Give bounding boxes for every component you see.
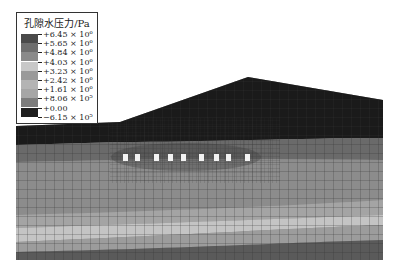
legend-label: −6.15 × 10⁵	[43, 113, 93, 122]
legend-tick	[38, 80, 42, 81]
legend-swatch	[21, 34, 38, 43]
legend-swatch	[21, 62, 38, 71]
legend-swatch	[21, 52, 38, 61]
legend-tick	[38, 117, 42, 118]
legend-label: +3.23 × 10⁶	[43, 67, 93, 76]
legend-label: +6.45 × 10⁶	[43, 30, 93, 39]
legend-title: 孔隙水压力/Pa	[17, 15, 97, 30]
legend-label: +8.06 × 10⁵	[43, 94, 93, 103]
legend-swatch	[21, 98, 38, 107]
legend-tick	[38, 89, 42, 90]
color-legend: 孔隙水压力/Pa +6.45 × 10⁶+5.65 × 10⁶+4.84 × 1…	[16, 12, 98, 124]
legend-swatch	[21, 108, 38, 117]
legend-tick	[38, 98, 42, 99]
legend-tick	[38, 34, 42, 35]
legend-label: +5.65 × 10⁶	[43, 39, 93, 48]
legend-swatch	[21, 80, 38, 89]
legend-tick	[38, 108, 42, 109]
legend-tick	[38, 71, 42, 72]
legend-tick	[38, 43, 42, 44]
legend-label: +4.84 × 10⁶	[43, 48, 93, 57]
legend-swatch	[21, 43, 38, 52]
legend-swatch	[21, 71, 38, 80]
legend-tick	[38, 62, 42, 63]
legend-label: +4.03 × 10⁶	[43, 58, 93, 67]
legend-tick	[38, 52, 42, 53]
legend-swatch	[21, 89, 38, 98]
legend-label: +2.42 × 10⁶	[43, 76, 93, 85]
legend-label: +1.61 × 10⁶	[43, 85, 93, 94]
legend-label: +0.00	[43, 104, 68, 113]
